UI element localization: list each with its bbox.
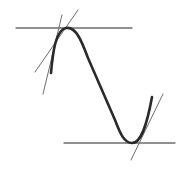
diagram-canvas [0,0,187,169]
lower-tangent [131,94,163,160]
curve-diagram [0,0,187,169]
s-curve [51,28,152,143]
horizontal-lines-group [16,28,175,143]
